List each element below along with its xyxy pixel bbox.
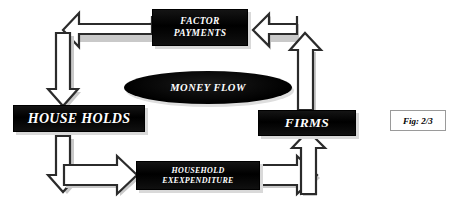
figure-caption: Fig: 2/3 bbox=[390, 110, 446, 131]
figure-caption-label: Fig: 2/3 bbox=[403, 116, 433, 126]
node-money-flow-label: MONEY FLOW bbox=[170, 82, 246, 93]
node-factor-payments-line1: FACTOR bbox=[180, 16, 219, 28]
arrow-households-to-expenditure bbox=[64, 156, 140, 196]
node-household-expenditure[interactable]: HOUSEHOLD EXEXPENDITURE bbox=[136, 161, 260, 190]
node-households[interactable]: HOUSE HOLDS bbox=[13, 105, 145, 132]
node-factor-payments-line2: PAYMENTS bbox=[174, 28, 227, 40]
arrow-firms-to-factor-payments bbox=[253, 14, 299, 50]
arrow-firms-up bbox=[290, 33, 321, 112]
node-money-flow[interactable]: MONEY FLOW bbox=[124, 71, 292, 104]
node-firms[interactable]: FIRMS bbox=[258, 110, 356, 136]
node-household-expenditure-line1: HOUSEHOLD bbox=[172, 166, 225, 176]
node-households-label: HOUSE HOLDS bbox=[28, 110, 130, 128]
node-household-expenditure-line2: EXEXPENDITURE bbox=[162, 176, 233, 186]
figure-canvas: FACTOR PAYMENTS MONEY FLOW HOUSE HOLDS F… bbox=[0, 0, 458, 213]
node-firms-label: FIRMS bbox=[285, 115, 329, 132]
node-factor-payments[interactable]: FACTOR PAYMENTS bbox=[152, 9, 248, 46]
